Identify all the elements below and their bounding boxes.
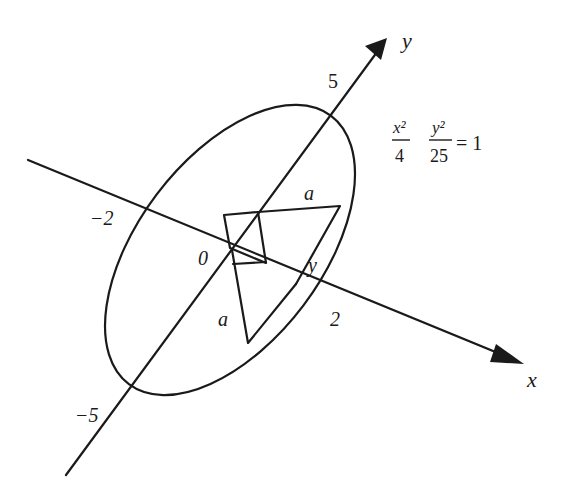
x-axis-arrow-icon — [490, 344, 524, 364]
tick-y-5: 5 — [328, 70, 338, 92]
tick-y-neg5: −5 — [75, 404, 99, 426]
upper-a-label: a — [304, 182, 314, 204]
ellipse-diagram: y x 5 −5 2 −2 0 a a y x² 4 y² 25 = 1 — [0, 0, 572, 498]
tick-x-2: 2 — [330, 308, 340, 330]
y-axis — [66, 38, 387, 475]
lower-a-label: a — [218, 308, 228, 330]
ellipse — [55, 60, 404, 439]
lower-triangle — [232, 250, 296, 343]
x-axis-label: x — [526, 367, 537, 392]
y-axis-arrow-icon — [365, 38, 387, 60]
y-side-label: y — [306, 254, 317, 277]
eq-term2-numerator: y² — [430, 118, 446, 137]
eq-term1-numerator: x² — [392, 118, 407, 137]
origin-label: 0 — [198, 247, 208, 269]
tick-x-neg2: −2 — [90, 207, 114, 229]
eq-term1-denominator: 4 — [395, 146, 404, 166]
eq-term2-denominator: 25 — [430, 146, 448, 166]
ellipse-equation: x² 4 y² 25 = 1 — [392, 118, 482, 166]
y-axis-label: y — [400, 28, 412, 53]
eq-rhs: = 1 — [456, 132, 482, 154]
